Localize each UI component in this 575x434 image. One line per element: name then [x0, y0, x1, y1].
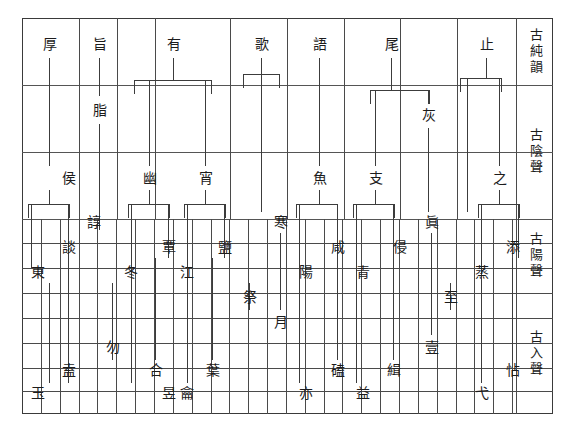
connector-stem	[131, 283, 132, 383]
rime-character: 魚	[310, 167, 329, 189]
grid-vline-upper	[230, 18, 231, 219]
connector-stem	[49, 283, 50, 383]
connector-bracket	[353, 204, 395, 218]
connector-stem	[205, 190, 206, 204]
connector-stem	[391, 58, 392, 90]
legend-cell-1: 古純韻	[517, 18, 553, 85]
rime-character: 昱	[159, 382, 178, 404]
connector-stem	[155, 258, 156, 360]
rime-character: 鹽	[215, 236, 234, 258]
rime-character: 侵	[390, 236, 409, 258]
rime-character: 有	[164, 33, 183, 55]
grid-vline	[267, 219, 268, 414]
grid-vline	[248, 219, 249, 414]
connector-stem	[393, 258, 394, 360]
rime-character: 覃	[159, 236, 178, 258]
connector-stem	[337, 258, 338, 360]
connector-bracket	[28, 204, 70, 218]
rime-character: 至	[441, 286, 460, 308]
grid-vline-upper	[344, 18, 345, 219]
connector-bracket	[134, 80, 212, 94]
rime-character: 陽	[296, 261, 315, 283]
rime-character: 語	[310, 33, 329, 55]
connector-stem	[173, 58, 174, 80]
rime-character: 厚	[40, 33, 59, 55]
grid-vline	[437, 219, 438, 414]
rime-character: 尾	[382, 33, 401, 55]
rime-character: 灰	[419, 104, 438, 126]
connector-bracket	[243, 74, 280, 88]
grid-vline	[116, 219, 117, 414]
rime-character: 冬	[121, 261, 140, 283]
connector-bracket	[184, 204, 226, 218]
rime-character: 脂	[90, 99, 109, 121]
grid-vline-upper	[79, 18, 80, 219]
grid-vline	[324, 219, 325, 414]
connector-bracket	[370, 90, 430, 104]
rime-character: 眞	[422, 211, 441, 233]
rime-character: 合	[146, 359, 165, 381]
rime-character: 幽	[140, 167, 159, 189]
connector-stem	[187, 283, 188, 383]
rime-character: 弋	[472, 382, 491, 404]
connector-bracket	[460, 78, 502, 92]
connector-stem	[261, 74, 262, 212]
rime-character: 江	[177, 261, 196, 283]
connector-stem	[512, 258, 513, 360]
rime-character: 勿	[103, 336, 122, 358]
rime-character: 止	[477, 33, 496, 55]
rime-character: 寒	[271, 211, 290, 233]
legend-label: 古入聲	[526, 330, 545, 378]
connector-bracket	[128, 204, 170, 218]
connector-stem	[319, 58, 320, 166]
connector-stem	[149, 190, 150, 204]
grid-vline	[493, 219, 494, 414]
connector-stem	[467, 78, 468, 212]
rime-character: 宵	[196, 167, 215, 189]
rime-character: 東	[28, 261, 47, 283]
rime-category-chart: 厚旨有歌語尾止脂灰侯幽宵魚支之諄寒眞談覃鹽咸侵添東冬江陽青蒸祭至月勿壹盍合葉磕緝…	[0, 0, 575, 434]
legend-cell-3: 古陽聲	[517, 219, 553, 293]
rime-character: 旨	[90, 33, 109, 55]
rime-character: 之	[490, 167, 509, 189]
rime-character: 緝	[384, 359, 403, 381]
rime-character: 支	[366, 167, 385, 189]
grid-vline	[79, 219, 80, 414]
rime-character: 益	[353, 382, 372, 404]
grid-vline	[97, 219, 98, 414]
connector-stem	[486, 58, 487, 78]
rime-character: 歌	[252, 33, 271, 55]
connector-stem	[356, 283, 357, 383]
connector-stem	[280, 233, 281, 310]
rime-character: 咸	[328, 236, 347, 258]
rime-character: 磕	[328, 359, 347, 381]
grid-vline	[418, 219, 419, 414]
connector-stem	[499, 190, 500, 204]
rime-character: 龠	[177, 382, 196, 404]
rime-character: 月	[271, 311, 290, 333]
connector-stem	[319, 190, 320, 204]
grid-vline	[456, 219, 457, 414]
connector-stem	[99, 58, 100, 96]
connector-stem	[49, 58, 50, 166]
rime-character: 玉	[28, 382, 47, 404]
legend-label: 古陰聲	[526, 128, 545, 176]
grid-vline	[135, 219, 136, 414]
rime-character: 諄	[84, 211, 103, 233]
rime-character: 侯	[59, 167, 78, 189]
connector-stem	[49, 190, 50, 204]
connector-stem	[375, 190, 376, 204]
connector-stem	[212, 258, 213, 360]
connector-bracket	[296, 204, 338, 218]
grid-vline-upper	[117, 18, 118, 219]
connector-stem	[299, 283, 300, 383]
connector-bracket	[478, 204, 520, 218]
connector-stem	[481, 283, 482, 383]
grid-vline-upper	[457, 18, 458, 219]
rime-character: 盍	[59, 359, 78, 381]
legend-label: 古純韻	[526, 28, 545, 76]
grid-vline	[380, 219, 381, 414]
rime-character: 壹	[422, 336, 441, 358]
connector-stem	[431, 233, 432, 335]
legend-cell-2: 古陰聲	[517, 85, 553, 219]
